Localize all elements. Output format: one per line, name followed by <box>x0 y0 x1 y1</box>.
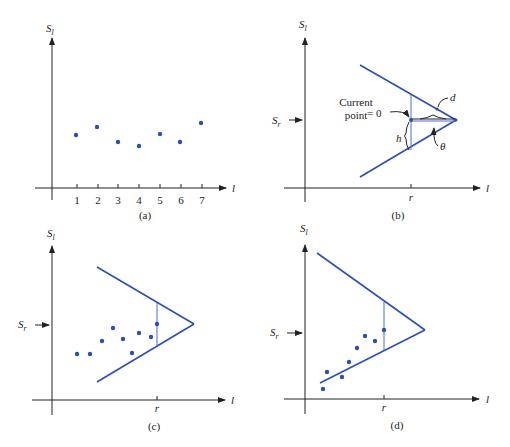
caption-c: (c) <box>148 420 161 433</box>
panel-a: Sl l 1 2 3 4 5 6 7 (a) <box>35 22 235 222</box>
sr-label: Sr <box>272 114 282 129</box>
y-axis-label: Sl <box>47 227 56 242</box>
lower-boundary <box>97 324 194 382</box>
d-pointer <box>438 98 448 107</box>
svg-text:6: 6 <box>178 194 184 206</box>
upper-boundary <box>97 267 194 324</box>
svg-text:7: 7 <box>199 194 205 206</box>
current-point-label-2: point <box>345 109 368 121</box>
tick-labels: 1 2 3 4 5 6 7 <box>74 194 205 206</box>
svg-text:5: 5 <box>157 194 163 206</box>
lower-boundary <box>320 330 425 383</box>
d-label: d <box>450 91 456 103</box>
data-points <box>321 328 386 391</box>
equals-zero-label: = 0 <box>367 107 382 119</box>
x-axis-label: l <box>231 394 234 406</box>
caption-b: (b) <box>392 209 405 222</box>
figure: Sl l 1 2 3 4 5 6 7 (a) <box>0 0 510 447</box>
sr-label: Sr <box>18 318 28 333</box>
x-axis-label: l <box>486 393 489 405</box>
d-point <box>436 108 439 111</box>
x-ticks <box>77 184 202 188</box>
svg-text:3: 3 <box>115 194 121 206</box>
y-axis-label: Sl <box>299 18 308 33</box>
caption-a: (a) <box>139 209 152 222</box>
panel-b: Sl l r Sr Current point = 0 d h θ (b) <box>272 18 489 222</box>
r-label: r <box>409 191 414 203</box>
caption-d: (d) <box>391 419 404 432</box>
y-axis-label: Sl <box>300 222 309 237</box>
x-axis-label: l <box>232 182 235 194</box>
panel-c: Sl l r Sr (c) <box>18 227 234 433</box>
data-points <box>75 322 159 356</box>
h-brace <box>405 122 410 150</box>
current-point-arrow <box>390 112 409 117</box>
r-label: r <box>155 402 160 414</box>
d-brace <box>420 115 446 119</box>
apex-point <box>455 119 458 122</box>
r-label: r <box>382 401 387 413</box>
sr-label: Sr <box>270 326 280 341</box>
y-axis-label: Sl <box>46 22 55 37</box>
svg-text:4: 4 <box>136 194 142 206</box>
x-axis-label: l <box>486 182 489 194</box>
svg-text:2: 2 <box>95 194 101 206</box>
upper-boundary <box>317 253 425 330</box>
panel-d: Sl l r Sr (d) <box>270 222 489 432</box>
svg-text:1: 1 <box>74 194 80 206</box>
h-label: h <box>396 132 402 144</box>
current-point <box>409 118 413 122</box>
theta-label: θ <box>440 140 446 152</box>
data-points <box>74 121 203 148</box>
